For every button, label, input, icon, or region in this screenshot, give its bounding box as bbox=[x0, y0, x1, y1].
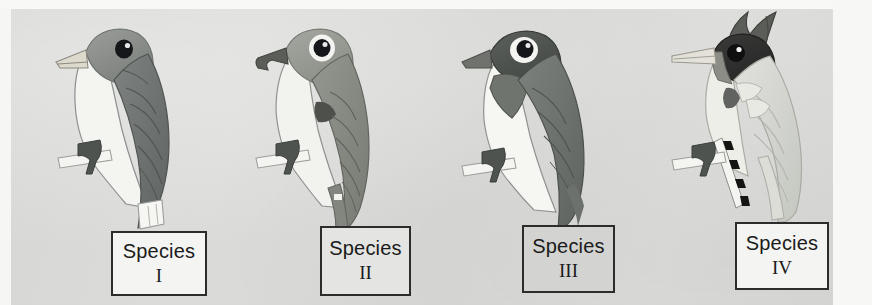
label-numeral-species-iv: IV bbox=[772, 258, 792, 279]
bird-illustration-species-iv bbox=[670, 8, 830, 223]
label-word-species-iii: Species bbox=[532, 236, 605, 258]
label-box-species-iii: Species III bbox=[522, 225, 615, 293]
bird-illustration-species-iii bbox=[458, 20, 608, 232]
figure-canvas: Species I bbox=[0, 0, 872, 305]
label-word-species-ii: Species bbox=[329, 238, 402, 260]
label-box-species-ii: Species II bbox=[320, 226, 411, 296]
label-numeral-species-ii: II bbox=[359, 263, 372, 284]
label-numeral-species-i: I bbox=[156, 266, 162, 287]
label-word-species-iv: Species bbox=[746, 233, 819, 255]
page-right-margin bbox=[833, 0, 872, 305]
page-left-margin bbox=[0, 0, 11, 305]
bird-illustration-species-i bbox=[52, 18, 192, 233]
label-numeral-species-iii: III bbox=[559, 261, 578, 282]
label-word-species-i: Species bbox=[123, 241, 196, 263]
label-box-species-i: Species I bbox=[111, 231, 207, 296]
bird-illustration-species-ii bbox=[250, 18, 395, 233]
label-box-species-iv: Species IV bbox=[735, 222, 829, 290]
